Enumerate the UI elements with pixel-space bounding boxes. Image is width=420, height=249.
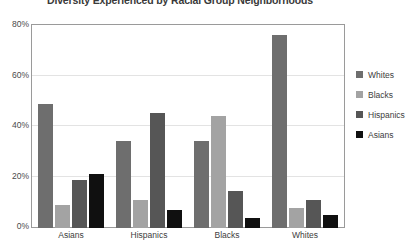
bar xyxy=(211,116,226,228)
legend-label: Whites xyxy=(368,70,394,80)
bar xyxy=(323,215,338,228)
bar xyxy=(245,218,260,228)
bar xyxy=(272,35,287,228)
y-tick-label: 20% xyxy=(3,172,29,181)
legend-label: Asians xyxy=(368,130,394,140)
bar xyxy=(150,113,165,228)
legend-label: Hispanics xyxy=(368,110,405,120)
bar xyxy=(38,104,53,228)
bar xyxy=(289,208,304,228)
bar xyxy=(72,180,87,228)
y-tick-label: 40% xyxy=(3,121,29,130)
x-tick-label: Hispanics xyxy=(110,230,188,241)
chart-legend: WhitesBlacksHispanicsAsians xyxy=(356,66,418,146)
y-axis: 0%20%40%60%80% xyxy=(0,0,29,249)
bar-chart: Diversity Experienced by Racial Group Ne… xyxy=(0,0,420,249)
legend-swatch-icon xyxy=(356,91,363,98)
x-tick-label: Asians xyxy=(32,230,110,241)
bar xyxy=(194,141,209,228)
legend-item[interactable]: Blacks xyxy=(356,86,418,103)
bar xyxy=(55,205,70,228)
bar-group xyxy=(32,25,110,228)
chart-title: Diversity Experienced by Racial Group Ne… xyxy=(0,0,360,7)
legend-item[interactable]: Whites xyxy=(356,66,418,83)
bar-group xyxy=(188,25,266,228)
legend-label: Blacks xyxy=(368,90,393,100)
bar-group xyxy=(266,25,344,228)
bar-group xyxy=(110,25,188,228)
bar xyxy=(167,210,182,228)
legend-swatch-icon xyxy=(356,71,363,78)
x-tick-label: Blacks xyxy=(188,230,266,241)
bar xyxy=(228,191,243,228)
y-tick-label: 60% xyxy=(3,71,29,80)
legend-swatch-icon xyxy=(356,111,363,118)
legend-item[interactable]: Hispanics xyxy=(356,106,418,123)
bar xyxy=(133,200,148,228)
y-tick-label: 0% xyxy=(3,222,29,231)
legend-swatch-icon xyxy=(356,131,363,138)
bar xyxy=(89,174,104,228)
bars-layer xyxy=(32,25,344,228)
bar xyxy=(306,200,321,228)
legend-item[interactable]: Asians xyxy=(356,126,418,143)
y-tick-label: 80% xyxy=(3,20,29,29)
bar xyxy=(116,141,131,228)
x-tick-label: Whites xyxy=(266,230,344,241)
x-axis: AsiansHispanicsBlacksWhites xyxy=(32,230,344,246)
